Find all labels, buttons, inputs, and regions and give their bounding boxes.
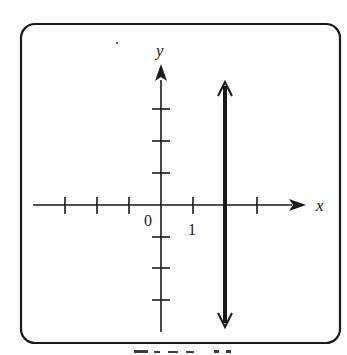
figure-frame bbox=[21, 24, 340, 343]
origin-label: 0 bbox=[144, 212, 152, 229]
y-axis-arrow-icon bbox=[155, 64, 167, 81]
stray-mark bbox=[116, 42, 118, 44]
y-axis-label: y bbox=[154, 41, 164, 60]
unit-tick-label: 1 bbox=[188, 221, 196, 238]
x-axis bbox=[33, 197, 306, 214]
figure-caption-partial bbox=[134, 350, 231, 353]
x-axis-label: x bbox=[315, 196, 324, 215]
graph-figure: y x 0 1 bbox=[0, 0, 347, 355]
y-axis bbox=[152, 64, 170, 332]
